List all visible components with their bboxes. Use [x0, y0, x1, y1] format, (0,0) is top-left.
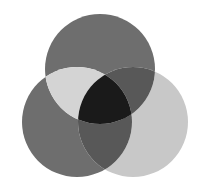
venn-diagram-canvas	[0, 0, 201, 191]
venn-diagram-figure: Three overlapping circles	[0, 0, 201, 191]
